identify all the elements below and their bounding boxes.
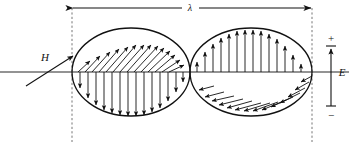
em-wave-diagram: λ H — [0, 0, 349, 155]
h-indicator-arrow — [26, 56, 73, 86]
left-lobe-h-vectors — [78, 45, 184, 72]
right-lobe-h-vectors — [199, 76, 312, 111]
positive-sign-label: + — [328, 32, 334, 44]
wavelength-label: λ — [187, 2, 193, 13]
em-wave-figure: λ H — [0, 0, 349, 155]
electric-field-label: E — [338, 66, 346, 78]
magnetic-field-label: H — [40, 51, 50, 63]
left-lobe-e-vectors — [80, 72, 183, 116]
negative-sign-label: − — [328, 109, 334, 121]
